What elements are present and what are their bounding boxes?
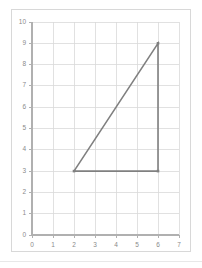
x-tick-label: 3 [87,242,103,249]
y-tick-label: 2 [10,189,26,196]
triangle-series [32,22,179,235]
y-tick-label: 9 [10,40,26,47]
y-tick-label: 6 [10,104,26,111]
x-tick-label: 7 [171,242,187,249]
series-line-triangle [74,43,158,171]
chart-figure: 012345678910 01234567 [0,0,202,268]
vertex-marker [157,170,160,173]
y-tick-label: 1 [10,210,26,217]
vertex-marker [157,42,160,45]
y-tick-label: 8 [10,61,26,68]
vertex-marker [73,170,76,173]
x-tick-label: 2 [66,242,82,249]
y-tick-label: 3 [10,168,26,175]
x-tick-label: 0 [24,242,40,249]
y-tick-label: 0 [10,232,26,239]
x-tick-label: 5 [129,242,145,249]
x-tick-label: 1 [45,242,61,249]
y-tick-label: 4 [10,146,26,153]
y-tick-label: 7 [10,82,26,89]
y-tick-label: 5 [10,125,26,132]
x-tick-label: 4 [108,242,124,249]
figure-bottom-rule [0,261,202,262]
x-tick-label: 6 [150,242,166,249]
y-tick-label: 10 [10,19,26,26]
plot-area [32,22,179,235]
